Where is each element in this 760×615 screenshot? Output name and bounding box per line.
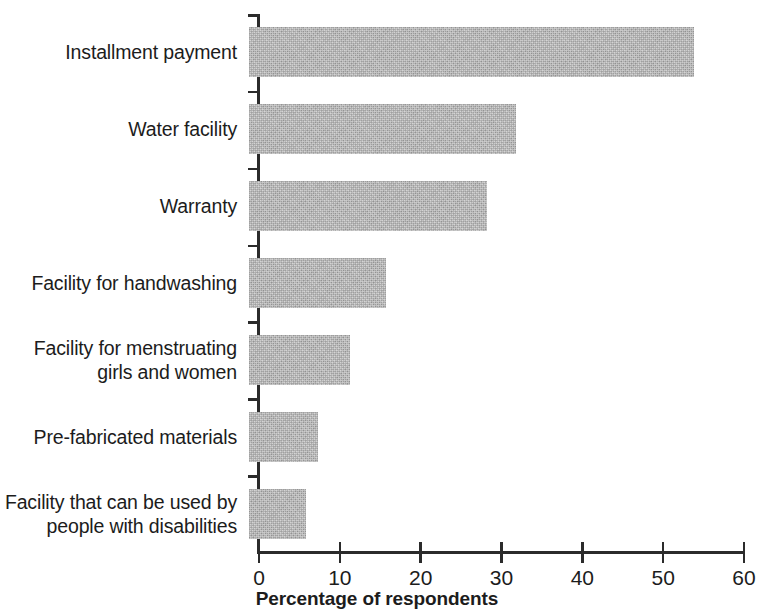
bar [249, 104, 516, 154]
category-tick [248, 398, 259, 401]
bar-track [247, 14, 754, 91]
value-axis-tick [743, 552, 746, 563]
value-axis-tick [500, 552, 503, 563]
bar-track [247, 91, 754, 168]
bar-row: Pre-fabricated materials [0, 398, 754, 475]
category-tick [248, 475, 259, 478]
value-axis-tick-label: 10 [310, 566, 370, 590]
bar-row: Warranty [0, 168, 754, 245]
category-label: Warranty [0, 194, 247, 218]
bar-track [247, 245, 754, 322]
bar [249, 258, 386, 308]
bar-track [247, 321, 754, 398]
category-tick [248, 321, 259, 324]
category-label: Facility for handwashing [0, 271, 247, 295]
category-tick [248, 245, 259, 248]
category-label: Facility for menstruating girls and wome… [0, 336, 247, 384]
bar-track [247, 475, 754, 552]
value-axis-tick-label: 50 [633, 566, 693, 590]
bar-row: Facility for handwashing [0, 245, 754, 322]
bar-row: Water facility [0, 91, 754, 168]
category-tick [248, 168, 259, 171]
bar-rows: Installment paymentWater facilityWarrant… [0, 14, 754, 552]
bar [249, 412, 318, 462]
value-axis-tick [581, 552, 584, 563]
category-label: Facility that can be used by people with… [0, 490, 247, 538]
category-label: Water facility [0, 117, 247, 141]
value-axis-tick [339, 552, 342, 563]
category-tick [248, 91, 259, 94]
category-label: Pre-fabricated materials [0, 425, 247, 449]
value-axis-tick [258, 552, 261, 563]
value-axis-tick-upper [419, 542, 422, 552]
bar [249, 335, 350, 385]
value-axis-tick-label: 30 [472, 566, 532, 590]
bar-row: Facility for menstruating girls and wome… [0, 321, 754, 398]
bar-track [247, 398, 754, 475]
category-label: Installment payment [0, 40, 247, 64]
bar [249, 27, 694, 77]
value-axis-tick-upper [662, 542, 665, 552]
x-axis-title: Percentage of respondents [0, 588, 754, 610]
bar-track [247, 168, 754, 245]
bar-row: Facility that can be used by people with… [0, 475, 754, 552]
value-axis-tick-label: 20 [391, 566, 451, 590]
value-axis-tick-label: 40 [552, 566, 612, 590]
bar-row: Installment payment [0, 14, 754, 91]
value-axis-tick-upper [581, 542, 584, 552]
value-axis-tick-upper [500, 542, 503, 552]
value-axis-tick [662, 552, 665, 563]
value-axis-tick-upper [339, 542, 342, 552]
value-axis-tick-label: 60 [714, 566, 760, 590]
bar [249, 181, 487, 231]
category-tick [248, 14, 259, 17]
bar [249, 489, 306, 539]
value-axis-tick [419, 552, 422, 563]
value-axis-tick-label: 0 [229, 566, 289, 590]
value-axis-tick-upper [743, 542, 746, 552]
